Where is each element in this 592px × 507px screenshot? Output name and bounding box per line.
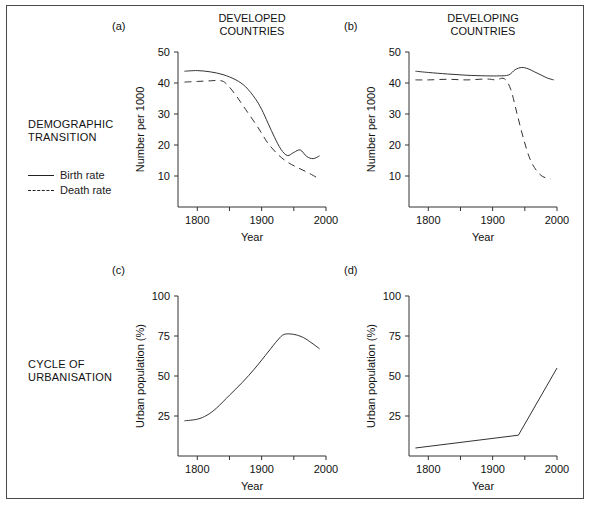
x-tick-label-b: 1800: [416, 214, 440, 226]
y-tick-label-c: 25: [158, 410, 170, 422]
y-tick-label-b: 10: [389, 170, 401, 182]
x-tick-label-b: 1900: [480, 214, 504, 226]
y-tick-label-b: 40: [389, 77, 401, 89]
x-axis-label-a: Year: [241, 231, 264, 243]
y-axis-label-b: Number per 1000: [365, 87, 377, 173]
y-tick-label-b: 50: [389, 46, 401, 58]
x-tick-label-d: 1800: [416, 463, 440, 475]
y-tick-label-b: 20: [389, 139, 401, 151]
y-tick-label-c: 50: [158, 370, 170, 382]
x-axis-label-d: Year: [472, 480, 495, 492]
y-tick-label-c: 75: [158, 330, 170, 342]
y-tick-label-c: 100: [152, 290, 170, 302]
panel-title-b: COUNTRIES: [451, 25, 516, 37]
figure-plot-area: (a)DEVELOPEDCOUNTRIES1020304050180019002…: [0, 0, 592, 507]
series-a-1: [184, 80, 316, 177]
y-tick-label-d: 50: [389, 370, 401, 382]
panel-title-a: DEVELOPED: [218, 12, 285, 24]
panel-tag-a: (a): [112, 20, 125, 32]
series-a-0: [184, 71, 319, 159]
x-tick-label-d: 2000: [545, 463, 569, 475]
x-tick-label-d: 1900: [480, 463, 504, 475]
series-b-0: [415, 67, 553, 79]
y-tick-label-b: 30: [389, 108, 401, 120]
series-d-0: [415, 368, 557, 448]
y-axis-label-c: Urban population (%): [134, 324, 146, 428]
panel-tag-b: (b): [344, 20, 357, 32]
panel-a: (a)DEVELOPEDCOUNTRIES1020304050180019002…: [112, 12, 338, 243]
y-tick-label-a: 30: [158, 108, 170, 120]
panel-d: (d)255075100180019002000YearUrban popula…: [344, 264, 569, 492]
panel-tag-c: (c): [112, 264, 125, 276]
panel-tag-d: (d): [344, 264, 357, 276]
y-tick-label-a: 40: [158, 77, 170, 89]
y-tick-label-d: 100: [383, 290, 401, 302]
series-c-0: [184, 334, 319, 421]
y-tick-label-a: 10: [158, 170, 170, 182]
y-tick-label-d: 25: [389, 410, 401, 422]
panel-title-b: DEVELOPING: [447, 12, 519, 24]
y-tick-label-a: 20: [158, 139, 170, 151]
x-tick-label-c: 1900: [249, 463, 273, 475]
y-axis-label-a: Number per 1000: [134, 87, 146, 173]
series-b-1: [415, 78, 550, 179]
y-tick-label-a: 50: [158, 46, 170, 58]
x-tick-label-a: 2000: [314, 214, 338, 226]
x-tick-label-c: 1800: [185, 463, 209, 475]
x-tick-label-a: 1800: [185, 214, 209, 226]
x-tick-label-a: 1900: [249, 214, 273, 226]
panel-title-a: COUNTRIES: [220, 25, 285, 37]
x-axis-label-b: Year: [472, 231, 495, 243]
x-axis-label-c: Year: [241, 480, 264, 492]
x-tick-label-b: 2000: [545, 214, 569, 226]
y-axis-label-d: Urban population (%): [365, 324, 377, 428]
panel-b: (b)DEVELOPINGCOUNTRIES102030405018001900…: [344, 12, 569, 243]
panel-c: (c)255075100180019002000YearUrban popula…: [112, 264, 338, 492]
y-tick-label-d: 75: [389, 330, 401, 342]
x-tick-label-c: 2000: [314, 463, 338, 475]
